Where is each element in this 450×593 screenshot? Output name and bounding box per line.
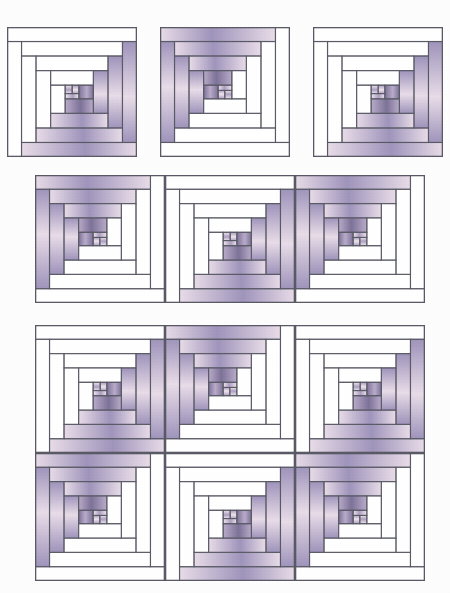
quilt-block-grid-six-blocks-2: [295, 325, 425, 453]
quilt-block-row-single-blocks-1: [160, 27, 290, 157]
diagram-canvas: [0, 0, 450, 593]
quilt-block-grid-six-blocks-1: [165, 325, 295, 453]
quilt-block-row-joined-blocks-1: [165, 175, 295, 303]
quilt-block-row-joined-blocks-0: [35, 175, 165, 303]
quilt-block-grid-six-blocks-4: [165, 453, 295, 581]
arrangement-row-joined-blocks: [35, 175, 425, 303]
quilt-block-row-joined-blocks-2: [295, 175, 425, 303]
arrangement-grid-six-blocks: [35, 325, 425, 581]
quilt-block-grid-six-blocks-3: [35, 453, 165, 581]
quilt-block-row-single-blocks-0: [7, 27, 137, 157]
arrangement-row-single-blocks: [7, 27, 443, 157]
quilt-block-grid-six-blocks-5: [295, 453, 425, 581]
quilt-block-grid-six-blocks-0: [35, 325, 165, 453]
quilt-block-row-single-blocks-2: [313, 27, 443, 157]
